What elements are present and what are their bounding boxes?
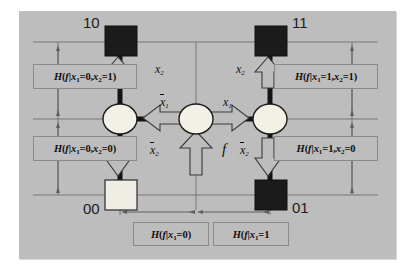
- edge-label-not-x2-bottom-left: x2: [150, 143, 159, 158]
- edge-label-x2-top-right: x2: [236, 62, 245, 77]
- corner-code-11: 11: [292, 14, 308, 31]
- edge-label-x2-top-left: x2: [155, 62, 164, 77]
- corner-code-01: 01: [292, 199, 309, 216]
- annotation-h-x1-0-x2-1: H(f|x1=0,x2=1): [33, 64, 137, 89]
- annotation-h-x1-0-x2-0: H(f|x1=0,x2=0): [33, 136, 137, 161]
- edge-label-not-x1-center-left: x1: [160, 95, 169, 110]
- edge-label-not-x2-bottom-right: x2: [240, 143, 249, 158]
- corner-code-10: 10: [83, 14, 100, 31]
- annotation-h-x1-1: H(f|x1=1: [213, 222, 289, 246]
- annotation-h-x1-1-x2-1: H(f|x1=1,x2=1): [274, 64, 378, 89]
- annotation-h-x1-0: H(f|x1=0): [133, 222, 209, 246]
- figure-root: 10 11 00 01 H(f|x1=0,x2=1) H(f|x1=0,x2=0…: [0, 0, 414, 273]
- corner-code-00: 00: [83, 200, 100, 217]
- edge-label-x1-center-right: x1: [223, 95, 232, 110]
- annotation-h-x1-1-x2-0: H(f|x1=1,x2=0: [274, 136, 378, 161]
- function-input-label: f: [222, 141, 226, 158]
